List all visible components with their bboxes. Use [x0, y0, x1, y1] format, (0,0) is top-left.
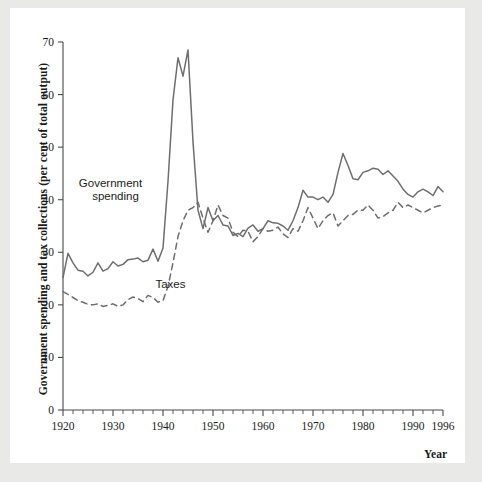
y-tick-label: 60 [43, 89, 55, 101]
x-tick-label: 1920 [52, 420, 75, 432]
x-tick-label: 1980 [352, 420, 375, 432]
x-tick-label: 1990 [402, 420, 425, 432]
chart-plot: 010203040506070 192019301940195019601970… [0, 0, 482, 482]
y-tick-label: 30 [43, 246, 55, 258]
x-tick-label: 1930 [102, 420, 125, 432]
y-tick-label: 10 [43, 351, 55, 363]
x-axis-ticks: 192019301940195019601970198019901996 [52, 410, 455, 432]
series-line-government-spending [63, 50, 443, 278]
y-tick-label: 20 [43, 299, 55, 311]
series-line-taxes [63, 202, 443, 306]
series-annotations: GovernmentspendingTaxes [79, 177, 186, 290]
x-tick-label: 1960 [252, 420, 275, 432]
x-tick-label: 1996 [432, 420, 455, 432]
y-tick-label: 70 [43, 36, 55, 48]
series-label: spending [92, 190, 139, 202]
y-tick-label: 50 [43, 141, 55, 153]
y-axis-ticks: 010203040506070 [43, 36, 64, 416]
series-label: Government [79, 177, 143, 189]
x-tick-label: 1970 [302, 420, 325, 432]
y-tick-label: 0 [48, 404, 54, 416]
figure-container: Government spending and tax collections … [0, 0, 482, 482]
series-label: Taxes [155, 278, 185, 290]
x-tick-label: 1950 [202, 420, 225, 432]
x-tick-label: 1940 [152, 420, 175, 432]
y-tick-label: 40 [43, 194, 55, 206]
